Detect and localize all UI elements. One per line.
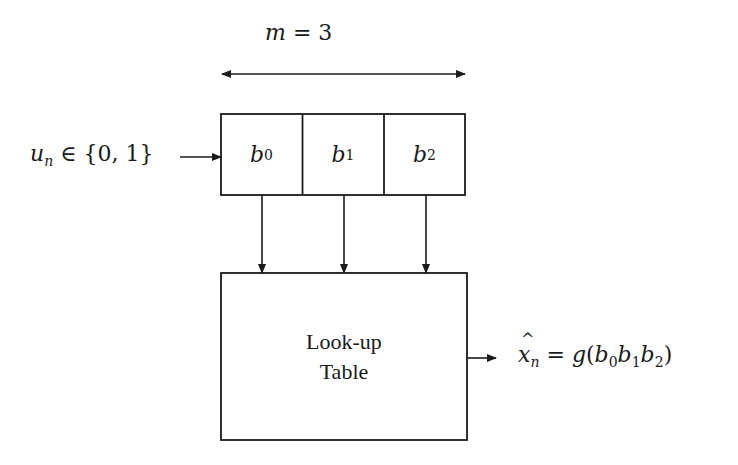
output-eq: = bbox=[546, 342, 564, 367]
cell-var: b bbox=[250, 142, 264, 167]
arg-var: b bbox=[618, 342, 632, 367]
output-func: g bbox=[572, 342, 586, 367]
input-var: u bbox=[30, 141, 44, 166]
register-cell-b2: b2 bbox=[384, 114, 465, 195]
input-relation: ∈ bbox=[60, 141, 76, 166]
cell-sub: 2 bbox=[427, 147, 436, 163]
arg-sub: 1 bbox=[632, 354, 641, 370]
cell-var: b bbox=[413, 142, 427, 167]
lookup-table-label: Look-up Table bbox=[221, 273, 467, 440]
arg-sub: 0 bbox=[609, 354, 618, 370]
input-set: {0, 1} bbox=[84, 141, 154, 166]
cell-sub: 1 bbox=[346, 147, 355, 163]
width-var: m bbox=[265, 20, 286, 45]
width-eq: = bbox=[293, 20, 311, 45]
register-cell-b0: b0 bbox=[221, 114, 302, 195]
arg-var: b bbox=[641, 342, 655, 367]
cell-var: b bbox=[331, 142, 345, 167]
lookup-table-line2: Table bbox=[320, 357, 369, 387]
output-sub: n bbox=[530, 354, 539, 370]
register-cell-b1: b1 bbox=[302, 114, 384, 195]
width-label: m = 3 bbox=[265, 20, 332, 45]
output-var: x bbox=[518, 342, 530, 367]
cell-sub: 0 bbox=[264, 147, 273, 163]
input-sub: n bbox=[44, 153, 53, 169]
input-label: un ∈ {0, 1} bbox=[30, 141, 153, 169]
lookup-table-line1: Look-up bbox=[306, 327, 382, 357]
width-value: 3 bbox=[318, 20, 332, 45]
arg-sub: 2 bbox=[655, 354, 664, 370]
arg-var: b bbox=[595, 342, 609, 367]
output-label: xn = g(b0b1b2) bbox=[518, 342, 672, 370]
